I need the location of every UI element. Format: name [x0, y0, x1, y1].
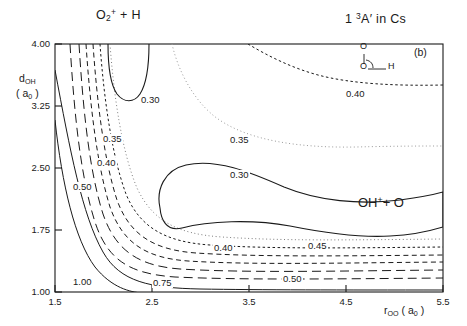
electronic-state-label: 1 3A′ in Cs [345, 12, 406, 25]
molecular-geometry-inset: O O H [352, 42, 410, 80]
contour-0.75 [55, 70, 443, 290]
contour-level-label: 1.00 [72, 277, 93, 287]
x-axis-ticks [55, 285, 443, 292]
y-tick-label-0: 4.00 [20, 39, 50, 49]
inset-atom-bottom: O [360, 62, 367, 71]
contour-plot-figure: 4.00 3.25 2.50 1.75 1.00 1.5 2.5 3.5 4.5… [0, 0, 467, 326]
contour-level-label: 0.45 [307, 241, 328, 251]
x-tick-label-1: 2.5 [137, 297, 167, 307]
inset-atom-top: O [360, 42, 367, 51]
contour-level-label: 0.40 [213, 243, 234, 253]
x-tick-label-2: 3.5 [234, 297, 264, 307]
contour-level-label: 0.30 [229, 170, 250, 180]
x-tick-label-4: 5.5 [428, 297, 458, 307]
contour-level-label: 0.35 [102, 134, 123, 144]
contour-level-label: 0.40 [96, 158, 117, 168]
contour-level-label: 0.35 [229, 135, 250, 145]
x-tick-label-3: 4.5 [331, 297, 361, 307]
y-tick-label-1: 3.25 [20, 101, 50, 111]
x-tick-label-0: 1.5 [40, 297, 70, 307]
y-axis-ticks [55, 44, 62, 292]
bond-angle-arc [366, 60, 373, 68]
y-tick-label-2: 2.50 [20, 163, 50, 173]
product-channel-label: OH++ O [358, 196, 404, 209]
contour-level-label: 0.50 [72, 182, 93, 192]
y-tick-label-3: 1.75 [20, 225, 50, 235]
contour-level-label: 0.40 [345, 89, 366, 99]
contour-1.00 [55, 120, 142, 293]
reactant-channel-label: O2+ + H [96, 8, 141, 22]
inset-atom-right: H [388, 62, 395, 71]
y-axis-title: dOH ( a0 ) [16, 73, 39, 101]
contour-level-label: 0.75 [152, 278, 173, 288]
contour-level-label: 0.30 [140, 95, 161, 105]
panel-label: (b) [414, 47, 427, 58]
contour-level-label: 0.50 [282, 274, 303, 284]
y-tick-label-4: 1.00 [20, 287, 50, 297]
contour-0.30-upper-well [108, 44, 149, 101]
x-axis-title: rOO ( a0 ) [384, 305, 424, 318]
